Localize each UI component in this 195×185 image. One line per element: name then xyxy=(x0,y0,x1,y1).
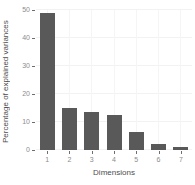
y-tick-mark xyxy=(32,66,35,67)
bar-dimension-1 xyxy=(40,13,55,150)
x-tick-label: 4 xyxy=(104,156,124,164)
y-tick-mark xyxy=(32,38,35,39)
y-tick-mark xyxy=(32,94,35,95)
x-tick-label: 7 xyxy=(171,156,191,164)
bar-dimension-7 xyxy=(173,147,188,150)
gridline-vertical xyxy=(180,10,181,150)
bar-dimension-5 xyxy=(129,132,144,150)
x-tick-mark xyxy=(159,151,160,154)
x-axis-title: Dimensions xyxy=(36,168,192,177)
y-tick-label: 50 xyxy=(0,6,30,14)
bar-dimension-4 xyxy=(107,115,122,150)
bar-dimension-2 xyxy=(62,108,77,150)
x-tick-label: 1 xyxy=(37,156,57,164)
scree-plot: Percentage of explained variances 010203… xyxy=(0,0,195,185)
y-tick-label: 0 xyxy=(0,146,30,154)
x-tick-mark xyxy=(69,151,70,154)
x-tick-label: 3 xyxy=(82,156,102,164)
x-tick-mark xyxy=(47,151,48,154)
y-tick-mark xyxy=(32,10,35,11)
y-tick-mark xyxy=(32,150,35,151)
y-tick-label: 20 xyxy=(0,90,30,98)
x-tick-mark xyxy=(114,151,115,154)
y-tick-mark xyxy=(32,122,35,123)
x-tick-mark xyxy=(92,151,93,154)
gridline-vertical xyxy=(158,10,159,150)
x-tick-label: 5 xyxy=(126,156,146,164)
bar-dimension-6 xyxy=(151,144,166,150)
x-tick-mark xyxy=(181,151,182,154)
x-tick-label: 6 xyxy=(149,156,169,164)
plot-panel xyxy=(36,10,192,150)
y-tick-label: 10 xyxy=(0,118,30,126)
bar-dimension-3 xyxy=(84,112,99,150)
y-tick-label: 40 xyxy=(0,34,30,42)
y-tick-label: 30 xyxy=(0,62,30,70)
y-axis-tick-labels: 01020304050 xyxy=(0,0,30,185)
x-tick-label: 2 xyxy=(59,156,79,164)
x-tick-mark xyxy=(136,151,137,154)
gridline-vertical xyxy=(136,10,137,150)
